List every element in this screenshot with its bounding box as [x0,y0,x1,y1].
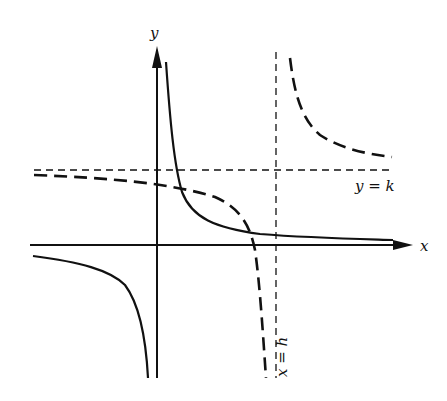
x-axis-label: x [420,237,429,255]
y-axis [152,46,162,378]
dashed-curve-right-branch [290,58,392,157]
solid-curve-left-branch [33,256,148,378]
y-axis-arrow-icon [152,46,162,68]
x-axis [30,240,413,250]
x-axis-arrow-icon [393,240,413,250]
y-axis-label: y [149,24,159,42]
hyperbola-diagram: y x y = k x = h [0,0,447,401]
vertical-asymptote-label: x = h [273,337,291,377]
dashed-curve-left-branch [34,175,266,378]
diagram-canvas: y x y = k x = h [0,0,447,401]
horizontal-asymptote-label: y = k [354,177,395,195]
